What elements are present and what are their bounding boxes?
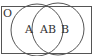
set-b-label: B — [61, 23, 69, 36]
set-a-label: A — [24, 23, 34, 36]
intersection-label: AB — [39, 23, 56, 36]
universe-label: O — [3, 7, 12, 20]
venn-diagram: O A AB B — [0, 0, 94, 56]
